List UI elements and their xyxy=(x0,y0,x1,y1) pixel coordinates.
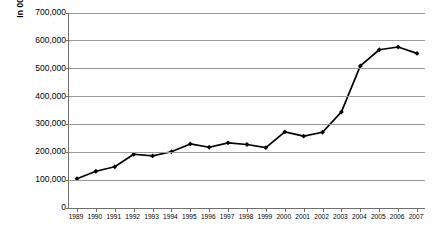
chart-container: In 000 Kilograms 0100,000200,000300,0004… xyxy=(0,0,434,247)
data-point-marker xyxy=(188,142,193,147)
y-axis-tick-label: 0 xyxy=(10,203,66,212)
x-axis-tick-label: 2003 xyxy=(333,212,348,221)
y-axis-tick-label: 100,000 xyxy=(10,175,66,184)
x-axis-tick-label: 2001 xyxy=(295,212,310,221)
y-axis-tick-mark xyxy=(66,152,69,153)
gridline xyxy=(69,68,425,69)
x-axis-tick-label: 1990 xyxy=(88,212,103,221)
gridline xyxy=(69,180,425,181)
gridline xyxy=(69,96,425,97)
x-axis-tick-label: 2004 xyxy=(352,212,367,221)
x-axis-tick-label: 1997 xyxy=(220,212,235,221)
y-axis-tick-mark xyxy=(66,96,69,97)
y-axis-tick-mark xyxy=(66,180,69,181)
y-axis-tick-label: 400,000 xyxy=(10,92,66,101)
x-axis-tick-label: 1995 xyxy=(182,212,197,221)
data-point-marker xyxy=(150,154,155,159)
data-point-marker xyxy=(415,51,420,56)
y-axis-tick-mark xyxy=(66,68,69,69)
x-axis-tick-labels: 1989199019911992199319941995199619971998… xyxy=(0,212,434,226)
x-axis-tick-label: 2006 xyxy=(390,212,405,221)
x-axis-tick-label: 1989 xyxy=(69,212,84,221)
x-axis-tick-label: 1991 xyxy=(106,212,121,221)
y-axis-tick-label: 300,000 xyxy=(10,119,66,128)
x-axis-tick-label: 1994 xyxy=(163,212,178,221)
x-axis-tick-label: 1992 xyxy=(125,212,140,221)
y-axis-tick-mark xyxy=(66,124,69,125)
x-axis-tick-label: 2005 xyxy=(371,212,386,221)
x-axis-tick-label: 2007 xyxy=(409,212,424,221)
x-axis-tick-label: 2000 xyxy=(276,212,291,221)
data-point-marker xyxy=(301,134,306,139)
y-axis-tick-mark xyxy=(66,40,69,41)
x-axis-tick-label: 1996 xyxy=(201,212,216,221)
gridline xyxy=(69,152,425,153)
data-point-marker xyxy=(245,142,250,147)
data-point-marker xyxy=(396,45,401,50)
x-axis-tick-label: 1993 xyxy=(144,212,159,221)
x-axis-tick-label: 1998 xyxy=(239,212,254,221)
data-point-marker xyxy=(226,140,231,145)
y-axis-tick-label: 500,000 xyxy=(10,64,66,73)
y-axis-tick-label: 600,000 xyxy=(10,36,66,45)
series-polyline xyxy=(77,47,417,179)
y-axis-tick-mark xyxy=(66,13,69,14)
gridline xyxy=(69,40,425,41)
x-axis-tick-label: 2002 xyxy=(314,212,329,221)
plot-area xyxy=(68,13,425,209)
y-axis-tick-label: 700,000 xyxy=(10,8,66,17)
data-point-marker xyxy=(207,145,212,150)
y-axis-tick-labels: 0100,000200,000300,000400,000500,000600,… xyxy=(8,0,66,247)
data-point-marker xyxy=(93,169,98,174)
gridline xyxy=(69,13,425,14)
x-axis-tick-label: 1999 xyxy=(258,212,273,221)
gridline xyxy=(69,124,425,125)
y-axis-tick-mark xyxy=(66,208,69,209)
y-axis-tick-label: 200,000 xyxy=(10,147,66,156)
